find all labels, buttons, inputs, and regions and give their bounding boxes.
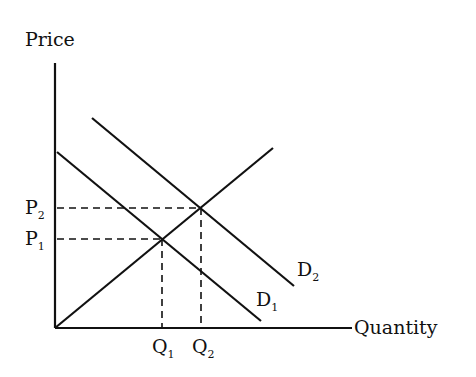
p2-label: P2	[25, 196, 45, 222]
d1-label: D1	[256, 288, 278, 314]
supply-demand-diagram: Price Quantity P2 P1 Q1 Q2 D2 D1	[0, 0, 476, 377]
x-axis-label: Quantity	[354, 316, 438, 338]
d2-label: D2	[297, 258, 319, 284]
demand-curve-d2	[92, 118, 294, 286]
demand-curve-d1	[57, 152, 261, 321]
q2-label: Q2	[192, 335, 215, 361]
p1-label: P1	[25, 227, 45, 253]
y-axis-label: Price	[25, 28, 75, 50]
q1-label: Q1	[152, 335, 175, 361]
supply-curve	[55, 148, 273, 328]
